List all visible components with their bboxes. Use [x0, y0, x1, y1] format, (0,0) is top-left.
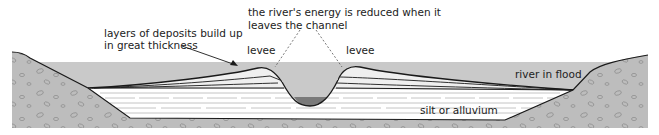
silt-label: silt or alluvium: [420, 104, 498, 116]
deposits-label: layers of deposits build up in great thi…: [104, 27, 246, 51]
floodplain-diagram: layers of deposits build up in great thi…: [0, 0, 659, 135]
flood-label: river in flood: [515, 68, 582, 80]
levee-left-label: levee: [247, 44, 276, 56]
energy-pointer-lines: [275, 30, 342, 67]
energy-label: the river's energy is reduced when it le…: [248, 6, 444, 31]
levee-right-label: levee: [346, 44, 375, 56]
